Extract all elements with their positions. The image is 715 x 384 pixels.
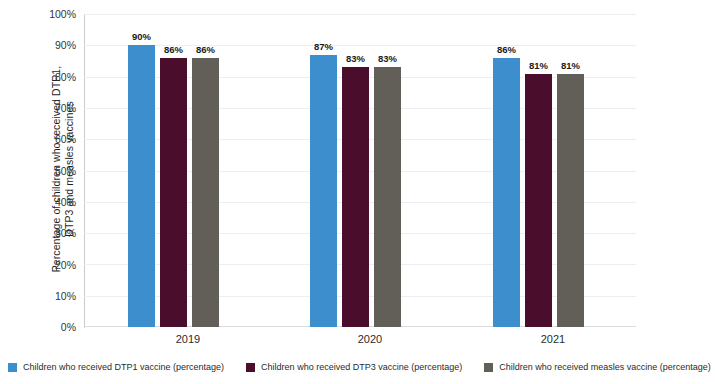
y-tick-label-100: 100% [30, 8, 76, 20]
bar-label-2021-dtp3: 81% [529, 60, 548, 71]
y-tick-label-90: 90% [30, 39, 76, 51]
bar-label-2021-measles: 81% [561, 60, 580, 71]
legend-swatch-icon-measles [484, 363, 493, 372]
bar-group-2019: 90% 86% 86% [128, 14, 248, 327]
y-tick-label-20: 20% [30, 259, 76, 271]
bar-label-2020-dtp1: 87% [314, 41, 333, 52]
bar-2020-dtp3[interactable]: 83% [342, 67, 369, 327]
bar-2019-measles[interactable]: 86% [192, 58, 219, 327]
legend-label-dtp1: Children who received DTP1 vaccine (perc… [23, 362, 224, 372]
bar-label-2019-dtp1: 90% [132, 31, 151, 42]
bar-label-2019-dtp3: 86% [164, 44, 183, 55]
y-tick-label-70: 70% [30, 102, 76, 114]
legend-label-measles: Children who received measles vaccine (p… [499, 362, 711, 372]
bar-group-2020: 87% 83% 83% [310, 14, 430, 327]
bar-label-2020-dtp3: 83% [346, 53, 365, 64]
legend-item-dtp3[interactable]: Children who received DTP3 vaccine (perc… [246, 362, 462, 372]
y-tick-label-50: 50% [30, 165, 76, 177]
bar-group-2021: 86% 81% 81% [493, 14, 613, 327]
bar-label-2020-measles: 83% [378, 53, 397, 64]
bar-2020-measles[interactable]: 83% [374, 67, 401, 327]
x-axis-label-2021: 2021 [493, 333, 613, 345]
y-tick-label-30: 30% [30, 227, 76, 239]
bar-2019-dtp1[interactable]: 90% [128, 45, 155, 327]
chart-legend: Children who received DTP1 vaccine (perc… [8, 362, 715, 372]
bar-2021-dtp1[interactable]: 86% [493, 58, 520, 327]
bar-2021-dtp3[interactable]: 81% [525, 74, 552, 328]
bar-label-2019-measles: 86% [196, 44, 215, 55]
bar-2020-dtp1[interactable]: 87% [310, 55, 337, 327]
legend-label-dtp3: Children who received DTP3 vaccine (perc… [261, 362, 462, 372]
bar-2021-measles[interactable]: 81% [557, 74, 584, 328]
x-axis-label-2019: 2019 [128, 333, 248, 345]
y-tick-label-10: 10% [30, 290, 76, 302]
bar-label-2021-dtp1: 86% [497, 44, 516, 55]
y-tick-label-60: 60% [30, 133, 76, 145]
legend-swatch-icon-dtp3 [246, 363, 255, 372]
x-axis-label-2020: 2020 [310, 333, 430, 345]
legend-item-dtp1[interactable]: Children who received DTP1 vaccine (perc… [8, 362, 224, 372]
y-tick-label-80: 80% [30, 71, 76, 83]
y-tick-label-40: 40% [30, 196, 76, 208]
y-tick-label-0: 0% [30, 321, 76, 333]
bar-2019-dtp3[interactable]: 86% [160, 58, 187, 327]
legend-swatch-icon-dtp1 [8, 363, 17, 372]
legend-item-measles[interactable]: Children who received measles vaccine (p… [484, 362, 711, 372]
plot-area: 90% 86% 86% 87% 83% 83% 86% [84, 14, 636, 327]
